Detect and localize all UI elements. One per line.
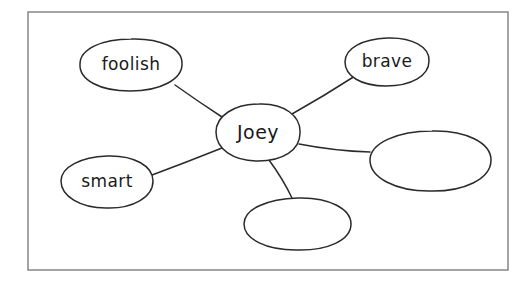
bubble-smart-label: smart xyxy=(81,171,133,191)
connector-center-to-blank-right xyxy=(299,144,370,152)
word-web-diagram: foolish brave smart Joey xyxy=(0,0,532,282)
bubble-foolish[interactable]: foolish xyxy=(80,39,182,91)
bubble-blank-right-outline xyxy=(370,131,491,191)
bubble-brave-label: brave xyxy=(362,51,413,71)
connector-center-to-blank-bottom xyxy=(269,160,292,198)
bubble-brave[interactable]: brave xyxy=(345,38,429,86)
bubble-center-label: Joey xyxy=(236,121,279,143)
bubble-center-joey[interactable]: Joey xyxy=(216,104,300,161)
connector-center-to-smart xyxy=(152,148,222,175)
connector-center-to-brave xyxy=(292,76,355,114)
bubble-blank-bottom-outline xyxy=(244,198,351,250)
bubble-smart[interactable]: smart xyxy=(61,156,153,208)
bubble-blank-bottom[interactable] xyxy=(244,198,351,250)
connector-center-to-foolish xyxy=(175,85,222,117)
bubble-foolish-label: foolish xyxy=(102,54,161,74)
diagram-canvas: foolish brave smart Joey xyxy=(0,0,532,282)
bubble-blank-right[interactable] xyxy=(370,131,491,191)
